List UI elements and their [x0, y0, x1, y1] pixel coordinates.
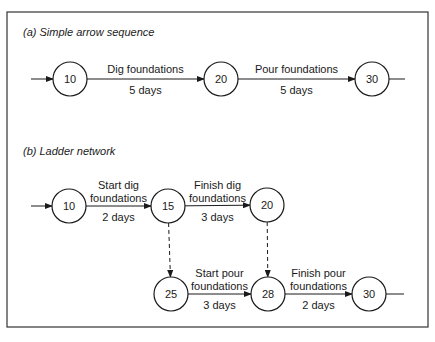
ladder-network-diagram: (a) Simple arrow sequence(b) Ladder netw… [0, 0, 435, 342]
event-node-b10: 10 [52, 189, 86, 223]
activity-dummy-20-28 [267, 222, 268, 277]
activity-name: foundations [290, 280, 347, 292]
activity-name: Start pour [195, 267, 244, 279]
activity-duration: 5 days [280, 84, 313, 96]
event-node-b28: 28 [251, 277, 285, 311]
activity-dig: Dig foundations5 days [87, 63, 204, 96]
activity-duration: 5 days [129, 84, 162, 96]
event-node-a30: 30 [355, 62, 389, 96]
node-number: 25 [165, 288, 177, 300]
node-number: 20 [215, 73, 227, 85]
node-number: 15 [162, 200, 174, 212]
activity-pour: Pour foundations5 days [238, 63, 355, 96]
event-node-b20: 20 [250, 188, 284, 222]
activity-name: Pour foundations [255, 63, 339, 75]
activity-name: Finish pour [291, 267, 346, 279]
activity-finish-dig: Finish digfoundations3 days [185, 179, 250, 223]
activity-name: foundations [189, 192, 246, 204]
dummy-arrow [267, 222, 268, 277]
event-node-a20: 20 [204, 62, 238, 96]
node-number: 10 [63, 200, 75, 212]
node-number: 30 [366, 73, 378, 85]
node-number: 20 [261, 199, 273, 211]
activity-duration: 2 days [102, 211, 135, 223]
event-node-b25: 25 [154, 277, 188, 311]
activity-name: Start dig [98, 179, 139, 191]
activity-duration: 3 days [203, 299, 236, 311]
activity-arrow [185, 205, 250, 206]
node-number: 30 [363, 288, 375, 300]
dummy-arrow [169, 223, 171, 277]
activity-name: foundations [90, 192, 147, 204]
activity-finish-pour: Finish pourfoundations2 days [285, 267, 352, 311]
activity-name: foundations [191, 280, 248, 292]
node-number: 28 [262, 288, 274, 300]
activity-name: Dig foundations [107, 63, 184, 75]
event-node-b30: 30 [352, 277, 386, 311]
section-title-b: (b) Ladder network [23, 145, 116, 157]
section-title-a: (a) Simple arrow sequence [23, 26, 154, 38]
event-node-b15: 15 [151, 189, 185, 223]
activity-duration: 2 days [302, 299, 335, 311]
activity-start-dig: Start digfoundations2 days [86, 179, 151, 223]
node-number: 10 [64, 73, 76, 85]
activity-dummy-15-25 [169, 223, 171, 277]
activity-duration: 3 days [201, 211, 234, 223]
activity-start-pour: Start pourfoundations3 days [188, 267, 251, 311]
diagram-canvas: (a) Simple arrow sequence(b) Ladder netw… [0, 0, 435, 342]
event-node-a10: 10 [53, 62, 87, 96]
activity-name: Finish dig [194, 179, 241, 191]
